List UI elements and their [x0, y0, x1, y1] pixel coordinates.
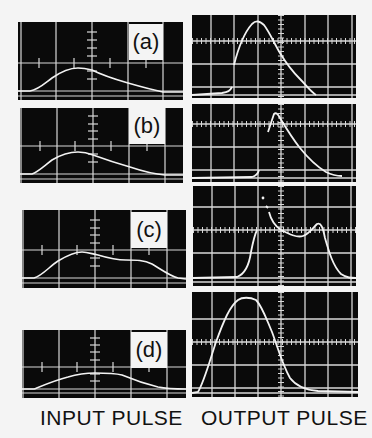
panel-label-a: (a)	[129, 24, 163, 60]
input-pulse-a-screen: (a)	[18, 22, 183, 100]
output-pulse-a-trace	[192, 15, 356, 98]
input-pulse-b-screen: (b)	[20, 108, 183, 183]
output-pulse-a-screen	[192, 15, 356, 98]
input-pulse-c-screen: (c)	[22, 210, 186, 288]
output-pulse-b-screen	[192, 104, 356, 182]
output-pulse-d-screen	[192, 292, 358, 397]
output-pulse-c-trace	[193, 186, 356, 286]
panel-label-c: (c)	[131, 212, 167, 248]
output-pulse-c-screen	[193, 186, 356, 286]
panel-label-b: (b)	[129, 108, 165, 144]
input-pulse-d-screen: (d)	[22, 330, 186, 398]
panel-label-d: (d)	[131, 332, 167, 368]
output-pulse-d-trace	[192, 292, 358, 397]
output-pulse-b-trace	[192, 104, 356, 182]
input-pulse-caption: INPUT PULSE	[40, 406, 183, 430]
output-pulse-caption: OUTPUT PULSE	[201, 406, 368, 430]
